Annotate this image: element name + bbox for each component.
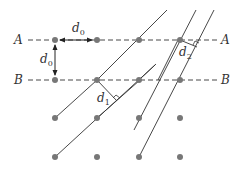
plane-d1-line-1: [55, 80, 97, 118]
crystal-lattice-diagram: A A B B d0 d0 d1 d2: [0, 0, 243, 169]
plane-d1-line-short: [139, 64, 156, 80]
arrowhead-left-icon: [59, 38, 65, 43]
label-d0-vertical: d0: [40, 52, 53, 68]
plane-d2-line-1: [134, 10, 196, 130]
arrowhead-up-icon: [53, 44, 58, 50]
plane-d2-line-2: [139, 10, 214, 157]
label-d2: d2: [179, 45, 192, 61]
plane-d1-line-3: [97, 10, 167, 80]
arrowhead-down-icon: [53, 70, 58, 76]
label-d0-horizontal: d0: [72, 21, 85, 37]
arrowhead-right-icon: [87, 38, 93, 43]
label-d1: d1: [97, 91, 110, 107]
plane-d2-line-3: [158, 40, 178, 80]
label-A-left: A: [13, 33, 23, 47]
label-B-right: B: [220, 73, 230, 87]
label-A-right: A: [220, 33, 230, 47]
label-B-left: B: [13, 73, 23, 87]
